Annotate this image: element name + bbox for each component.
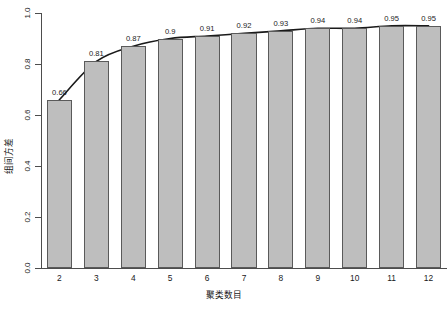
bar-value-label: 0.94 [347, 17, 362, 25]
bar-value-label: 0.93 [274, 20, 289, 28]
bar [379, 26, 404, 268]
x-tick-label: 4 [131, 274, 136, 282]
x-axis-line [41, 268, 447, 269]
bar-value-label: 0.94 [310, 17, 325, 25]
x-tick-label: 12 [424, 274, 433, 282]
x-axis-title-text: 聚类数目 [206, 290, 242, 300]
y-tick-label: 0.8 [0, 58, 33, 70]
x-tick-label: 11 [387, 274, 396, 282]
bar [268, 31, 293, 268]
x-tick-label: 7 [242, 274, 247, 282]
y-tick-label: 0.2 [0, 211, 33, 223]
cluster-variance-chart: 组间方差 0.00.20.40.60.81.0 0.660.810.870.90… [0, 0, 447, 312]
y-tick-label-text: 0.0 [23, 262, 31, 273]
y-tick-label: 0.0 [0, 262, 33, 274]
x-tick-label: 9 [315, 274, 320, 282]
plot-area: 0.660.810.870.90.910.920.930.940.940.950… [41, 13, 447, 268]
bar [231, 33, 256, 268]
bar-value-label: 0.66 [52, 89, 67, 97]
bar [47, 100, 72, 268]
bar [121, 46, 146, 268]
y-tick-label: 1.0 [0, 7, 33, 19]
y-tick-label-text: 0.2 [23, 211, 31, 222]
bar [305, 28, 330, 268]
y-tick-label: 0.6 [0, 109, 33, 121]
bar-value-label: 0.81 [89, 50, 104, 58]
bar-value-label: 0.92 [237, 22, 252, 30]
bar-value-label: 0.95 [421, 15, 436, 23]
bar [158, 39, 183, 269]
y-tick-label-text: 0.6 [23, 109, 31, 120]
bar [342, 28, 367, 268]
y-tick-label-text: 0.4 [23, 160, 31, 171]
x-tick-label: 6 [205, 274, 210, 282]
x-axis-title: 聚类数目 [0, 291, 447, 300]
x-tick-label: 10 [350, 274, 359, 282]
y-tick-label: 0.4 [0, 160, 33, 172]
bar [416, 26, 441, 268]
bar [84, 61, 109, 268]
bar-value-label: 0.87 [126, 35, 141, 43]
x-tick-label: 2 [57, 274, 62, 282]
x-tick-label: 8 [279, 274, 284, 282]
y-tick-label-text: 1.0 [23, 7, 31, 18]
bar-value-label: 0.91 [200, 25, 215, 33]
x-tick-label: 5 [168, 274, 173, 282]
bar-value-label: 0.95 [384, 15, 399, 23]
bar-value-label: 0.9 [165, 28, 176, 36]
x-tick-label: 3 [94, 274, 99, 282]
y-tick-label-text: 0.8 [23, 58, 31, 69]
bar [195, 36, 220, 268]
